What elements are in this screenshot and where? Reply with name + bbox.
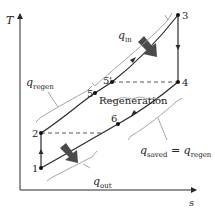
- arrow-3-4-icon: [176, 45, 181, 50]
- ts-diagram: T s 1 2 3 4 5 5' 6 qin qregen qout Regen…: [0, 0, 215, 209]
- label-point-6: 6: [111, 113, 117, 124]
- label-q-in: qin: [118, 29, 132, 44]
- label-q-saved-equals-q-regen: qsaved = qregen: [140, 144, 212, 159]
- s-axis-label: s: [189, 197, 194, 208]
- label-point-1: 1: [32, 163, 38, 174]
- point-2: [39, 131, 43, 135]
- label-q-out: qout: [93, 175, 112, 190]
- point-3: [176, 13, 180, 17]
- heat-out-arrow-icon: [60, 143, 78, 163]
- point-5: [93, 91, 97, 95]
- t-axis-label: T: [6, 14, 15, 27]
- label-point-4: 4: [182, 77, 188, 88]
- label-regeneration: Regeneration: [99, 95, 168, 106]
- point-4: [176, 80, 180, 84]
- process-2-3: [41, 15, 178, 133]
- label-point-3: 3: [182, 10, 188, 21]
- label-q-regen: qregen: [26, 76, 54, 91]
- label-point-2: 2: [32, 128, 38, 139]
- label-point-5-prime: 5': [103, 75, 112, 86]
- ts-diagram-svg: T s 1 2 3 4 5 5' 6 qin qregen qout Regen…: [0, 0, 215, 209]
- arrow-1-2-icon: [39, 149, 44, 154]
- point-1: [39, 166, 43, 170]
